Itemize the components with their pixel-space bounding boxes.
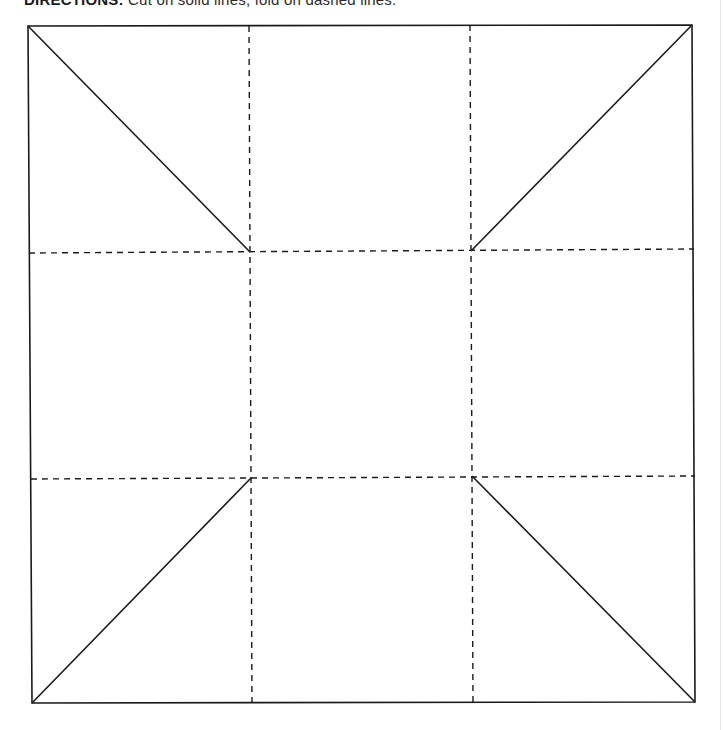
solid-diagonal-cut-lines [28,25,695,703]
diagonal-cut-top-right [471,25,692,251]
diagonal-cut-bottom-right [472,476,695,702]
horizontal-fold-top [29,249,694,253]
vertical-fold-right [470,25,473,702]
vertical-fold-left [249,26,252,703]
fold-template-diagram [0,0,723,730]
diagonal-cut-bottom-left [32,478,251,703]
diagonal-cut-top-left [28,26,250,252]
horizontal-fold-bottom [31,476,695,479]
